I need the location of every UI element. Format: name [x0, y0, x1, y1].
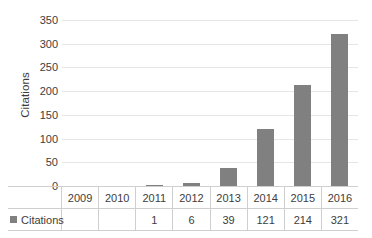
data-table-value-2014: 121 [248, 209, 285, 230]
data-table-corner-cell [8, 187, 62, 208]
bar-slot [321, 20, 358, 186]
y-tick-label: 100 [40, 133, 58, 145]
data-table-value-2016: 321 [322, 209, 358, 230]
bar-slot [173, 20, 210, 186]
data-table-value-2011: 1 [136, 209, 173, 230]
bar-2016 [331, 34, 347, 186]
citations-bar-chart: Citations 350300250200150100500 20092010… [0, 0, 372, 238]
legend-swatch-icon [10, 216, 17, 223]
plot-area [62, 20, 358, 186]
legend-entry-citations: Citations [8, 209, 62, 230]
bar-series-citations [62, 20, 358, 186]
bar-slot [247, 20, 284, 186]
data-table-value-2010 [99, 209, 136, 230]
bar-slot [210, 20, 247, 186]
data-table-value-2009 [62, 209, 99, 230]
data-table-value-2015: 214 [285, 209, 322, 230]
data-table-category-2012: 2012 [173, 187, 210, 208]
bar-slot [136, 20, 173, 186]
legend-label-citations: Citations [21, 214, 64, 226]
bar-slot [62, 20, 99, 186]
data-table-value-2013: 39 [211, 209, 248, 230]
y-tick-label: 50 [46, 156, 58, 168]
data-table-category-2010: 2010 [99, 187, 136, 208]
y-axis-ticks: 350300250200150100500 [30, 0, 62, 190]
data-table-header-row: 20092010201120122013201420152016 [8, 187, 358, 209]
data-table-category-2014: 2014 [248, 187, 285, 208]
y-tick-label: 300 [40, 38, 58, 50]
bar-2014 [257, 129, 273, 186]
data-table-value-row: Citations 1639121214321 [8, 209, 358, 231]
data-table-category-2015: 2015 [285, 187, 322, 208]
bar-slot [99, 20, 136, 186]
data-table-category-2013: 2013 [211, 187, 248, 208]
y-tick-label: 250 [40, 61, 58, 73]
data-table-category-2016: 2016 [322, 187, 358, 208]
y-tick-label: 200 [40, 85, 58, 97]
bar-2015 [294, 85, 310, 186]
data-table-category-2011: 2011 [136, 187, 173, 208]
data-table: 20092010201120122013201420152016 Citatio… [8, 186, 358, 231]
y-tick-label: 150 [40, 109, 58, 121]
bar-2013 [220, 168, 236, 186]
y-tick-label: 350 [40, 14, 58, 26]
data-table-category-2009: 2009 [62, 187, 99, 208]
data-table-value-2012: 6 [173, 209, 210, 230]
bar-slot [284, 20, 321, 186]
